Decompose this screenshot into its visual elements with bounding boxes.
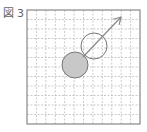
arrow-shaft	[83, 17, 121, 57]
diagram-canvas	[0, 0, 147, 132]
arrow	[83, 17, 121, 57]
